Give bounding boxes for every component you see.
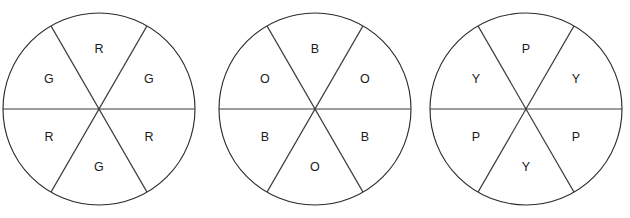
spinner-1[interactable]: RGGRRG	[0, 9, 199, 209]
sector-label: P	[522, 42, 531, 56]
sector-label: B	[311, 42, 320, 56]
spinner-3[interactable]: PYYPPY	[426, 9, 626, 209]
spinner-figure: RGGRRGBOOBBOPYYPPY	[0, 0, 630, 218]
sector-label: R	[44, 130, 53, 144]
sector-label: P	[572, 130, 581, 144]
sector-label: O	[310, 160, 320, 174]
sector-label: P	[472, 130, 481, 144]
sector-label: Y	[522, 160, 531, 174]
sector-label: Y	[472, 72, 481, 86]
sector-label: B	[261, 130, 270, 144]
sector-label: B	[361, 130, 370, 144]
sector-label: R	[144, 130, 153, 144]
sector-label: G	[44, 72, 54, 86]
sector-label: R	[94, 42, 103, 56]
sector-label: Y	[572, 72, 581, 86]
sector-label: G	[94, 160, 104, 174]
spinner-2[interactable]: BOOBBO	[215, 9, 415, 209]
clipped-top-caption	[150, 0, 450, 3]
sector-label: G	[144, 72, 154, 86]
sector-label: O	[260, 72, 270, 86]
sector-label: O	[360, 72, 370, 86]
